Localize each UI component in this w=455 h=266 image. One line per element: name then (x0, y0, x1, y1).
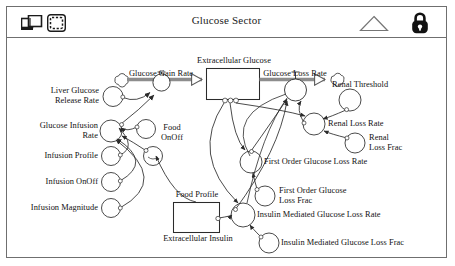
label-glucose-loss-rate: Glucose Loss Rate (250, 69, 340, 79)
link-stock-to-renal (236, 103, 305, 116)
window-titlebar: Glucose Sector (7, 7, 446, 38)
diagram-window: Glucose Sector (6, 6, 447, 258)
link-im-frac-to-rate (250, 225, 261, 237)
label-first-order-glucose-loss-rate: First Order Glucose Loss Rate (264, 157, 367, 167)
label-insulin-mediated-glucose-loss-rate: Insulin Mediated Glucose Loss Rate (257, 210, 381, 220)
window-title: Glucose Sector (7, 14, 446, 26)
label-extracellular-glucose: Extracellular Glucose (183, 56, 285, 66)
link-stock-to-first-order (230, 103, 245, 150)
link-food-to-infusion (121, 127, 137, 130)
link-stock-to-insulin-mediated (210, 103, 238, 203)
aux-infusion-magnitude (102, 199, 121, 218)
label-insulin-mediated-glucose-loss-frac: Insulin Mediated Glucose Loss Frac (281, 238, 404, 248)
aux-infusion-profile (102, 147, 121, 166)
label-first-order-glucose-loss-frac-line1: First Order Glucose (279, 186, 346, 196)
aux-renal-threshold (339, 89, 361, 111)
aux-liver-glucose-release-rate (103, 87, 123, 107)
diagram-canvas: Extracellular Glucose Glucose Gain Rate … (7, 38, 446, 258)
screenshot-root: Glucose Sector (0, 0, 455, 266)
aux-renal-loss-rate (303, 113, 325, 135)
aux-glucose-infusion-rate (100, 120, 122, 142)
link-renal-frac-to-rate (324, 131, 347, 138)
aux-first-order-glucose-loss-rate (240, 151, 262, 173)
valve-glucose-loss-rate (285, 79, 307, 101)
stock-extracellular-insulin (174, 203, 220, 233)
label-glucose-infusion-rate-line2: Rate (11, 131, 98, 141)
label-infusion-onoff: Infusion OnOff (11, 177, 98, 187)
label-first-order-glucose-loss-frac-line2: Loss Frac (279, 196, 312, 206)
label-infusion-magnitude: Infusion Magnitude (7, 203, 98, 213)
label-glucose-gain-rate: Glucose Gain Rate (115, 69, 207, 79)
label-extracellular-insulin: Extracellular Insulin (155, 234, 241, 244)
label-glucose-infusion-rate-line1: Glucose Infusion (11, 121, 98, 131)
label-renal-threshold: Renal Threshold (332, 80, 388, 90)
aux-insulin-mediated-glucose-loss-rate (231, 203, 255, 227)
link-insulin-stock-to-im-rate (219, 215, 232, 218)
link-renal-threshold-to-rate (323, 110, 346, 119)
label-food-onoff-line2: OnOff (155, 133, 189, 143)
label-infusion-profile: Infusion Profile (11, 151, 98, 161)
aux-infusion-onoff (102, 173, 121, 192)
aux-food-rate (137, 120, 156, 139)
label-food-profile: Food Profile (159, 190, 235, 200)
label-renal-loss-rate: Renal Loss Rate (328, 119, 384, 129)
label-food-onoff-line1: Food (155, 123, 189, 133)
label-renal-loss-frac-line1: Renal (369, 133, 389, 143)
link-liver-to-gain (123, 93, 150, 100)
label-liver-glucose-release-rate-line1: Liver Glucose (19, 86, 99, 96)
label-liver-glucose-release-rate-line2: Release Rate (19, 96, 99, 106)
label-renal-loss-frac-line2: Loss Frac (369, 143, 402, 153)
link-renal-to-loss (299, 101, 304, 123)
